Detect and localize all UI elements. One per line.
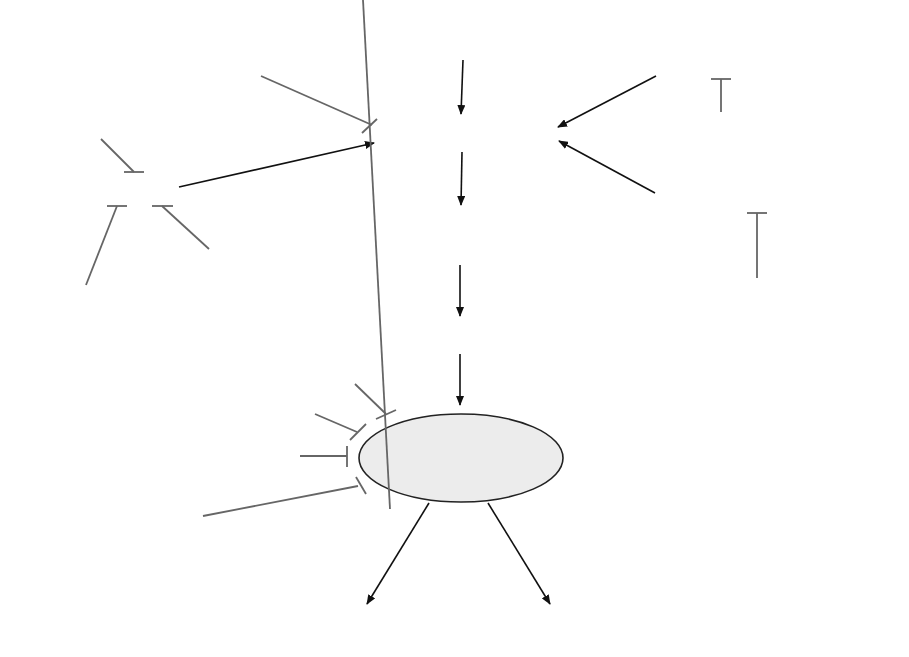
peripheral-inhibitions	[86, 76, 767, 285]
arrow-receptors-to-nerves	[461, 152, 462, 205]
central-inhibitions-left	[203, 0, 396, 516]
pathway-arrows	[179, 60, 656, 604]
arrow-brain-to-assessment	[488, 503, 550, 604]
arrow-vasodilation-to-receptors	[558, 76, 656, 127]
arrow-brain-to-perception	[367, 503, 429, 604]
pain-pathway-diagram	[0, 0, 909, 657]
arrow-tissue-to-receptors	[461, 60, 463, 114]
arrow-colics-to-receptors	[179, 143, 374, 187]
arrow-bone-metastases-to-receptors	[559, 141, 655, 193]
